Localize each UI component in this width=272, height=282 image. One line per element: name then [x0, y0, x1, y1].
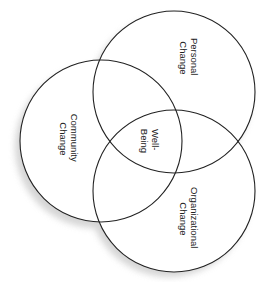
personal-label: Personal Change — [178, 38, 200, 78]
svg-text:Personal Change: Personal Change — [178, 38, 200, 78]
organizational-circle-fill — [93, 110, 255, 272]
fill-layer — [20, 11, 255, 272]
organizational-label-line-2: Change — [178, 202, 189, 235]
organizational-label-line-1: Organizational — [189, 187, 200, 248]
personal-label-line-2: Change — [178, 41, 189, 74]
community-label-line-2: Change — [58, 122, 69, 155]
well-being-label-line-1: Well- — [150, 129, 161, 150]
personal-label-line-1: Personal — [189, 38, 200, 76]
well-being-label: Well- Being — [139, 129, 161, 153]
venn-diagram: Personal Change Community Change Well- B… — [0, 0, 272, 282]
well-being-label-line-2: Being — [139, 129, 150, 153]
svg-text:Well- Being: Well- Being — [139, 129, 161, 153]
community-label-line-1: Community — [69, 114, 80, 162]
